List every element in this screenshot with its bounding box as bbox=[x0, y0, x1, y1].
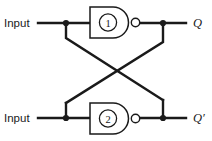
junction-dot-top-right bbox=[160, 20, 166, 26]
junction-dot-top-left bbox=[63, 20, 69, 26]
gate-2-number-label: 2 bbox=[105, 114, 110, 125]
circuit-diagram-canvas: 1 2 Input Input Q Q′ bbox=[0, 0, 212, 141]
gate-2-inversion-bubble-icon bbox=[131, 114, 139, 122]
label-input-bottom: Input bbox=[4, 112, 30, 124]
gate-1-number-label: 1 bbox=[105, 18, 110, 29]
gate-1-inversion-bubble-icon bbox=[131, 18, 139, 26]
label-output-q: Q bbox=[193, 16, 202, 30]
junction-dot-bottom-right bbox=[160, 115, 166, 121]
junction-dot-bottom-left bbox=[63, 115, 69, 121]
label-output-qbar: Q′ bbox=[193, 111, 205, 125]
logic-circuit-schematic: 1 2 Input Input Q Q′ bbox=[0, 0, 212, 141]
label-input-top: Input bbox=[4, 17, 30, 29]
